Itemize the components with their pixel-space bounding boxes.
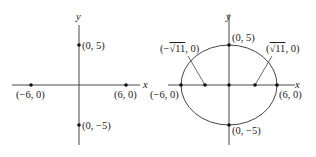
left-focus-label: (−√11, 0) — [160, 43, 200, 55]
right-focus-label: (√11, 0) — [266, 43, 300, 55]
left-point-right-label: (6, 0) — [114, 89, 137, 101]
left-point-top-label: (0, 5) — [82, 40, 105, 52]
left-y-axis-label: y — [75, 11, 81, 22]
right-vertex-top — [227, 43, 231, 47]
right-focus-point — [253, 83, 257, 87]
right-center-point — [227, 83, 231, 87]
right-vertex-right-label: (6, 0) — [279, 89, 302, 101]
right-vertex-bottom — [227, 123, 231, 127]
left-focus-leader-line — [188, 56, 205, 85]
left-point-bottom — [77, 123, 81, 127]
right-focus-radical: √11 — [270, 43, 286, 54]
left-point-right — [124, 83, 128, 87]
right-vertex-top-label: (0, 5) — [232, 32, 255, 44]
right-panel: y x (0, 5) (0, −5) (−6, 0) (6, 0) (−√11,… — [150, 11, 302, 145]
left-point-left — [29, 83, 33, 87]
left-focus-point — [203, 83, 207, 87]
right-focus-leader-line — [255, 56, 272, 85]
left-point-left-label: (−6, 0) — [16, 89, 45, 101]
right-vertex-left — [179, 83, 183, 87]
left-point-top — [77, 43, 81, 47]
left-x-axis-label: x — [142, 79, 148, 90]
right-y-axis-label: y — [225, 11, 231, 22]
left-panel: y x (0, 5) (0, −5) (−6, 0) (6, 0) — [12, 11, 148, 145]
figure: y x (0, 5) (0, −5) (−6, 0) (6, 0) y x (0… — [0, 0, 316, 157]
right-vertex-right — [275, 83, 279, 87]
right-vertex-bottom-label: (0, −5) — [232, 125, 261, 137]
right-vertex-left-label: (−6, 0) — [150, 89, 179, 101]
left-focus-radical: √11 — [169, 43, 185, 54]
left-point-bottom-label: (0, −5) — [82, 120, 111, 132]
